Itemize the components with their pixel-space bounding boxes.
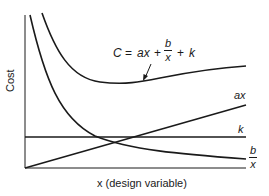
formula-fraction: b x [164, 38, 172, 63]
formula-plus-1: + [154, 46, 161, 60]
formula-equals: = [125, 46, 132, 60]
y-axis-label: Cost [4, 62, 16, 92]
label-ax: ax [234, 89, 246, 101]
label-b: b [250, 145, 256, 156]
label-x: x [250, 159, 256, 170]
formula-ax: ax [137, 46, 150, 60]
label-b-over-x: b x [249, 145, 257, 170]
label-k: k [238, 123, 244, 135]
formula-c: C [113, 46, 122, 60]
formula-b: b [165, 38, 171, 49]
formula-plus-2: + [177, 46, 184, 60]
chart-canvas [0, 0, 269, 196]
x-axis-label: x (design variable) [97, 177, 187, 189]
formula-k: k [189, 46, 195, 60]
formula-x: x [165, 52, 171, 63]
